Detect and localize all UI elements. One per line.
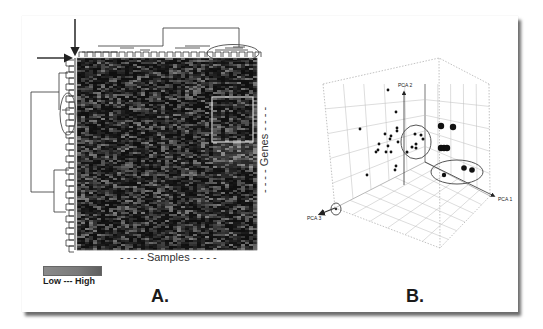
gene-dendrogram [31, 60, 74, 252]
pca3-label: PCA 3 [307, 215, 321, 221]
color-legend-label: Low --- High [43, 276, 95, 286]
panel-label-b: B. [406, 286, 424, 307]
pca1-label: PCA 1 [498, 196, 512, 202]
samples-axis-label: - - - - Samples - - - - [120, 251, 217, 263]
sample-dendrogram [79, 28, 261, 57]
pca-points [335, 89, 475, 211]
color-legend-bar [43, 266, 102, 276]
heatmap [77, 58, 257, 250]
genes-axis-label: - - - - Genes - - - - [258, 95, 270, 205]
pca-cluster-ellipse-2 [431, 160, 483, 184]
panel-label-a: A. [151, 286, 169, 307]
pca2-label: PCA 2 [398, 82, 412, 88]
pca-cluster-ellipse-1 [401, 125, 431, 159]
